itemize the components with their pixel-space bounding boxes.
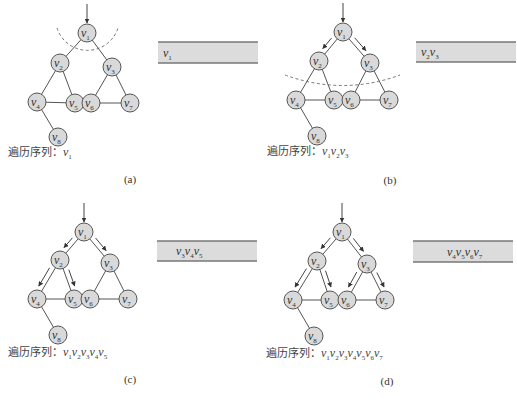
graph-node-v4: v4​ — [284, 291, 302, 309]
graph-node-v5: v5​ — [325, 91, 343, 109]
panel-b: v1​v2​v3​v4​v5​v6​v7​v8​v2​v3​遍历序列：v1​v2… — [267, 3, 516, 187]
graph-node-v1: v1​ — [78, 24, 96, 42]
graph-node-v1: v1​ — [75, 223, 93, 241]
traversal-arrow-v1-v3-icon — [353, 238, 363, 251]
traversal-arrow-v1-v3-icon — [355, 38, 366, 51]
panel-caption: (b) — [384, 174, 397, 187]
graph-node-v4: v4​ — [28, 93, 46, 111]
graph-node-v6: v6​ — [338, 291, 356, 309]
graph-node-v7: v7​ — [121, 94, 139, 112]
graph-node-v2: v2​ — [310, 52, 328, 70]
panel-caption: (c) — [124, 373, 137, 386]
graph-node-v3: v3​ — [358, 255, 376, 273]
queue-bar: v4​v5​v6​v7​ — [413, 241, 513, 262]
traversal-sequence: 遍历序列：v1​v2​v3​v4​v5​ — [8, 345, 108, 361]
traversal-sequence: 遍历序列：v1​ — [8, 145, 72, 161]
graph-node-v4: v4​ — [28, 290, 46, 308]
graph-node-v8: v8​ — [308, 127, 326, 145]
traversal-arrow-v1-v2-icon — [64, 238, 72, 248]
frontier-dashed-arc — [285, 75, 400, 86]
queue-contents: v3​v4​v5​ — [176, 244, 203, 260]
graph-node-v4: v4​ — [287, 91, 305, 109]
panel-d: v1​v2​v3​v4​v5​v6​v7​v8​v4​v5​v6​v7​遍历序列… — [266, 203, 513, 388]
graph-node-v7: v7​ — [376, 291, 394, 309]
graph-node-v6: v6​ — [342, 91, 360, 109]
graph-node-v2: v2​ — [308, 252, 326, 270]
graph-node-v5: v5​ — [321, 291, 339, 309]
panel-caption: (a) — [124, 173, 137, 186]
graph-node-v3: v3​ — [103, 58, 121, 76]
graph-node-v8: v8​ — [305, 327, 323, 345]
queue-bar: v2​v3​ — [416, 42, 516, 62]
queue-bar: v1​ — [158, 42, 258, 63]
queue-bar: v3​v4​v5​ — [157, 241, 257, 261]
traversal-arrow-v2-v4-icon — [39, 268, 50, 286]
graph-node-v8: v8​ — [49, 128, 67, 146]
graph-node-v7: v7​ — [119, 290, 137, 308]
traversal-arrow-v2-v5-icon — [69, 270, 75, 286]
graph-node-v2: v2​ — [51, 54, 69, 72]
graph-node-v1: v1​ — [333, 223, 351, 241]
graph-node-v1: v1​ — [334, 23, 352, 41]
graph-node-v6: v6​ — [81, 290, 99, 308]
graph-node-v6: v6​ — [82, 94, 100, 112]
bfs-traversal-figure: v1​v2​v3​v4​v5​v6​v7​v8​v1​遍历序列：v1​(a)v1… — [0, 0, 517, 402]
traversal-arrow-v2-v5-icon — [326, 271, 331, 287]
graph-node-v5: v5​ — [65, 290, 83, 308]
graph-node-v7: v7​ — [380, 91, 398, 109]
graph-node-v3: v3​ — [101, 254, 119, 272]
panel-c: v1​v2​v3​v4​v5​v6​v7​v8​v3​v4​v5​遍历序列：v1… — [8, 203, 257, 386]
traversal-sequence: 遍历序列：v1​v2​v3​ — [267, 144, 349, 160]
graph-node-v3: v3​ — [361, 54, 379, 72]
panel-a: v1​v2​v3​v4​v5​v6​v7​v8​v1​遍历序列：v1​(a) — [8, 4, 258, 186]
traversal-sequence: 遍历序列：v1​v2​v3​v4​v5​v6​v7​ — [266, 346, 383, 362]
graph-node-v8: v8​ — [49, 326, 67, 344]
panel-caption: (d) — [381, 375, 394, 388]
traversal-arrow-v2-v4-icon — [295, 269, 306, 288]
graph-node-v2: v2​ — [51, 251, 69, 269]
traversal-arrow-v1-v3-icon — [96, 238, 107, 251]
graph-node-v5: v5​ — [66, 94, 84, 112]
